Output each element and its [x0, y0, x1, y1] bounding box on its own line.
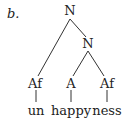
- branch-root-to-n: [70, 19, 86, 37]
- branch-n-to-af2: [88, 51, 104, 76]
- morpheme-un: un: [28, 104, 45, 117]
- node-a: A: [66, 77, 75, 90]
- node-inner: N: [82, 37, 93, 50]
- morpheme-happy: happy: [51, 104, 91, 117]
- node-root: N: [64, 4, 75, 17]
- morpheme-ness: ness: [92, 104, 121, 117]
- node-af-right: Af: [100, 77, 114, 90]
- branch-n-to-a: [73, 51, 88, 76]
- branch-root-to-af1: [38, 19, 70, 76]
- node-af-left: Af: [28, 77, 42, 90]
